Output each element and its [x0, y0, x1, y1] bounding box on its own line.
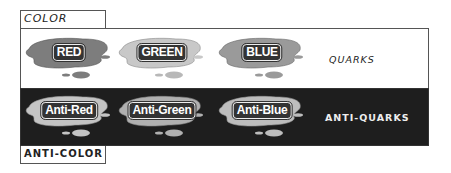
color-tab: COLOR — [20, 10, 106, 29]
blob-label: BLUE — [242, 44, 281, 61]
blob-anti-blue: Anti-Blue — [216, 91, 308, 141]
color-tab-label: COLOR — [24, 12, 67, 25]
anti-color-tab: ANTI-COLOR — [20, 146, 106, 164]
blob-label: RED — [53, 44, 85, 61]
blob-anti-green: Anti-Green — [116, 91, 208, 141]
quarks-label: QUARKS — [329, 54, 375, 65]
blob-red: RED — [23, 33, 115, 83]
blob-anti-red: Anti-Red — [23, 91, 115, 141]
blob-label: Anti-Green — [128, 102, 195, 119]
anti-quarks-label: ANTI-QUARKS — [325, 112, 410, 123]
blob-label: Anti-Blue — [233, 102, 292, 119]
blob-green: GREEN — [116, 33, 208, 83]
anti-quarks-panel: Anti-Red Anti-Green Anti-Blue ANTI-QUARK… — [20, 88, 429, 146]
blob-label: GREEN — [137, 44, 186, 61]
quarks-panel: RED GREEN BLUE QUARKS — [20, 28, 429, 88]
anti-color-tab-label: ANTI-COLOR — [24, 148, 103, 159]
blob-label: Anti-Red — [41, 102, 97, 119]
blob-blue: BLUE — [216, 33, 308, 83]
